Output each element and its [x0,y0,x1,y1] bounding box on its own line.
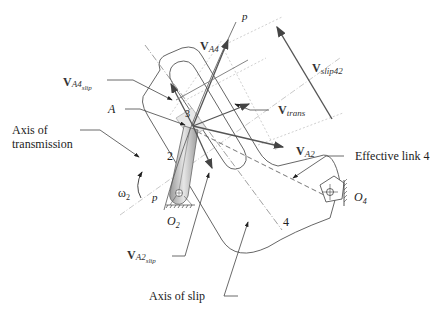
label-v-a2-slip: VA2slip [127,248,156,265]
label-link-4: 4 [283,215,289,229]
v-a2-slip-vector [193,126,212,168]
label-o4: O4 [354,190,367,206]
label-v-slip42: Vslip42 [312,61,343,76]
slider-mechanism-diagram: p p VA4 VA4slip Vslip42 Vtrans VA2 VA2sl… [0,0,448,315]
label-o2: O2 [167,214,180,230]
axis-of-slip-line [145,45,282,230]
label-p-bottom: p [151,191,158,203]
label-omega-2: ω2 [118,186,130,202]
effective-link-line [190,128,330,198]
label-link-3: 3 [185,108,190,119]
label-axis-transmission-line1: Axis of [12,123,48,137]
o4-pivot [320,176,347,206]
omega-arrow [138,172,142,198]
label-v-a4-slip: VA4slip [63,75,92,92]
v-trans-vector [193,104,249,126]
label-p-top: p [241,10,248,22]
label-v-a4: VA4 [200,39,219,54]
label-v-trans: Vtrans [278,103,306,118]
label-v-a2: VA2 [296,144,315,159]
label-point-a: A [107,102,116,116]
label-axis-transmission-line2: transmission [12,137,73,151]
label-effective-link-4: Effective link 4 [355,149,429,163]
label-link-2: 2 [167,149,173,163]
label-axis-of-slip: Axis of slip [149,289,205,303]
